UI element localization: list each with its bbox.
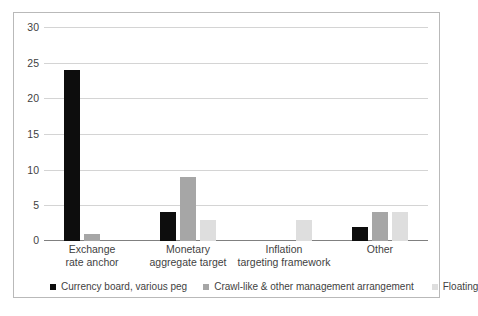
bar [296,220,312,241]
bar [180,177,196,241]
legend-item[interactable]: Crawl-like & other management arrangemen… [203,281,414,293]
bar-groups [44,27,428,241]
y-axis-tick-label: 20 [27,93,39,104]
legend-swatch-icon [50,284,56,290]
category-label: Monetaryaggregate target [140,243,236,269]
bar [64,70,80,241]
legend-label: Crawl-like & other management arrangemen… [214,281,414,293]
y-axis-tick-label: 25 [27,57,39,68]
plot-area: 051015202530 [44,27,428,241]
y-axis-tick-label: 15 [27,129,39,140]
bar [84,234,100,241]
bar-group [236,27,332,241]
bar [392,212,408,241]
category-axis-labels: Exchangerate anchorMonetaryaggregate tar… [44,243,428,269]
y-axis-tick-label: 5 [33,200,39,211]
legend-label: Currency board, various peg [61,281,187,293]
bar-group [332,27,428,241]
bar [200,220,216,241]
chart-legend: Currency board, various pegCrawl-like & … [36,281,426,293]
chart-frame: 051015202530 Exchangerate anchorMonetary… [13,12,440,298]
bar [372,212,388,241]
y-axis-tick-label: 0 [33,235,39,246]
bar [160,212,176,241]
category-label: Inflationtargeting framework [236,243,332,269]
legend-item[interactable]: Currency board, various peg [50,281,187,293]
bar-group [44,27,140,241]
legend-label: Floating [443,281,478,293]
legend-item[interactable]: Floating [432,281,478,293]
y-axis-tick-label: 30 [27,22,39,33]
y-axis-tick-label: 10 [27,164,39,175]
bar [352,227,368,241]
bar-group [140,27,236,241]
legend-swatch-icon [203,284,209,290]
legend-swatch-icon [432,284,438,290]
category-label: Other [332,243,428,269]
category-label: Exchangerate anchor [44,243,140,269]
